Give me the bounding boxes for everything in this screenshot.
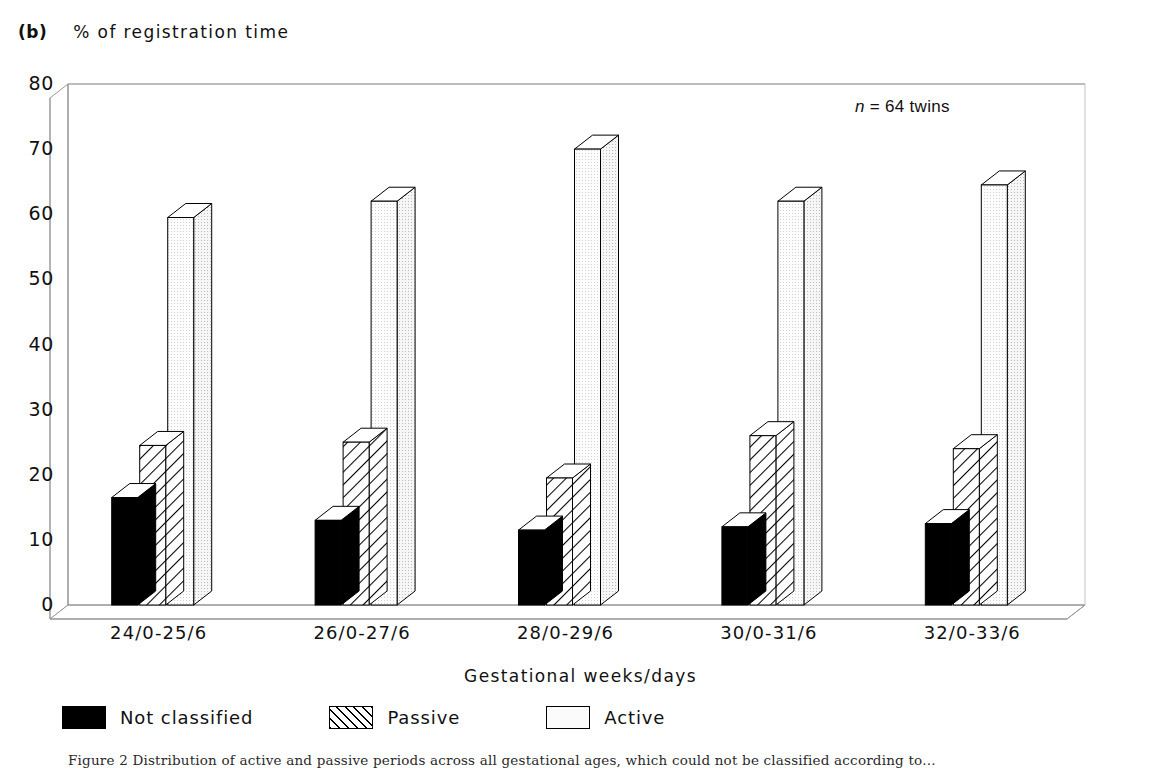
bar-side-face (166, 431, 184, 605)
x-tick-label: 26/0-27/6 (252, 622, 472, 643)
legend-swatch-icon (329, 706, 373, 729)
x-tick-label: 28/0-29/6 (456, 622, 676, 643)
bar-side-face (1007, 171, 1025, 605)
bar-side-face (951, 510, 969, 605)
bar-front-face (315, 520, 341, 605)
y-tick-label: 60 (8, 202, 54, 224)
y-tick-label: 40 (8, 333, 54, 355)
y-tick-label: 30 (8, 398, 54, 420)
legend-swatch-icon (62, 706, 106, 729)
bar-side-face (138, 484, 156, 605)
bar-not-classified (925, 510, 969, 605)
n-symbol: n (855, 97, 865, 116)
bar-side-face (545, 516, 563, 605)
x-tick-label: 32/0-33/6 (862, 622, 1082, 643)
bar-front-face (112, 498, 138, 605)
legend-entry-active[interactable]: Active (546, 706, 665, 729)
bar-front-face (925, 524, 951, 605)
bar-not-classified (112, 484, 156, 605)
bar-side-face (979, 435, 997, 605)
bar-not-classified (722, 513, 766, 605)
bar-side-face (776, 422, 794, 605)
legend-entry-not-classified[interactable]: Not classified (62, 706, 253, 729)
bar-side-face (369, 428, 387, 605)
legend-label: Active (604, 707, 665, 728)
bar-side-face (748, 513, 766, 605)
legend-entry-passive[interactable]: Passive (329, 706, 460, 729)
bar-side-face (341, 506, 359, 605)
figure-caption: Figure 2 Distribution of active and pass… (68, 752, 1098, 768)
legend-swatch-icon (546, 706, 590, 729)
n-value-text: = 64 twins (865, 97, 950, 116)
x-tick-label: 24/0-25/6 (49, 622, 269, 643)
bar-side-face (601, 135, 619, 605)
y-tick-label: 50 (8, 267, 54, 289)
x-axis-title: Gestational weeks/days (0, 666, 1161, 686)
y-tick-label: 80 (8, 72, 54, 94)
bar-front-face (722, 527, 748, 605)
legend-label: Passive (387, 707, 460, 728)
bar-side-face (397, 187, 415, 605)
x-tick-label: 30/0-31/6 (659, 622, 879, 643)
bar-side-face (573, 464, 591, 605)
chart-plot-area: 01020304050607080 24/0-25/626/0-27/628/0… (0, 0, 1161, 768)
bar-side-face (804, 187, 822, 605)
bar-not-classified (519, 516, 563, 605)
y-tick-label: 20 (8, 463, 54, 485)
y-tick-label: 10 (8, 528, 54, 550)
chart-legend: Not classifiedPassiveActive (62, 706, 665, 729)
y-tick-label: 70 (8, 137, 54, 159)
bar-front-face (519, 530, 545, 605)
sample-size-annotation: n = 64 twins (855, 97, 950, 117)
chart-svg (0, 0, 1161, 768)
bar-not-classified (315, 506, 359, 605)
legend-label: Not classified (120, 707, 253, 728)
y-tick-label: 0 (8, 593, 54, 615)
bar-side-face (194, 204, 212, 605)
